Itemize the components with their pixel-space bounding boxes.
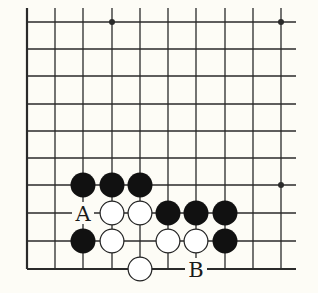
point-label-a: A [74,202,91,226]
black-stone [128,173,153,198]
board-grid [27,8,296,269]
point-label-b: B [188,258,203,282]
stones-layer [71,173,238,281]
white-stone [100,229,124,253]
black-stone [71,173,96,198]
white-stone [184,229,208,253]
black-stone [184,201,209,226]
white-stone [100,201,124,225]
white-stone [128,257,152,281]
black-stone [100,173,125,198]
black-stone [156,201,181,226]
star-point [278,182,284,188]
black-stone [71,229,96,254]
star-point [278,19,284,25]
go-board-diagram: AB [0,0,318,293]
white-stone [128,201,152,225]
black-stone [213,229,238,254]
star-point [109,19,115,25]
white-stone [156,229,180,253]
black-stone [213,201,238,226]
